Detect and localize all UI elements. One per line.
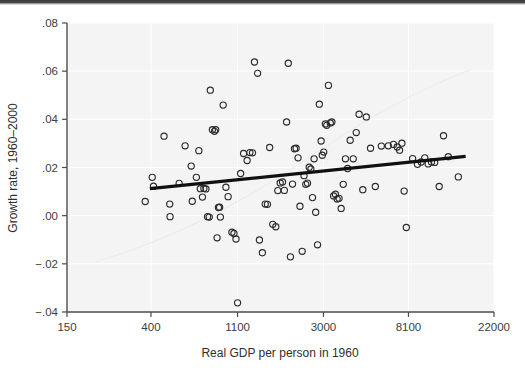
x-axis-ticks: 15040011003000810022000 [57, 312, 510, 333]
y-tick-label: −.04 [35, 306, 58, 318]
y-tick-label: .06 [42, 65, 58, 77]
y-tick-label: .08 [42, 17, 58, 29]
figure-container: −.04−.02.00.02.04.06.08 1504001100300081… [0, 0, 525, 375]
x-tick-label: 1100 [225, 321, 250, 333]
x-tick-label: 150 [57, 321, 76, 333]
x-tick-label: 400 [141, 321, 160, 333]
y-tick-label: .00 [42, 210, 58, 222]
x-tick-label: 3000 [311, 321, 337, 333]
scatter-plot: −.04−.02.00.02.04.06.08 1504001100300081… [0, 0, 525, 375]
y-tick-label: .02 [42, 162, 58, 174]
y-axis-title: Growth rate, 1960–2000 [6, 103, 20, 233]
y-tick-label: −.02 [35, 258, 58, 270]
x-tick-label: 8100 [396, 321, 422, 333]
x-axis-title: Real GDP per person in 1960 [201, 346, 359, 360]
x-tick-label: 22000 [478, 321, 510, 333]
y-tick-label: .04 [42, 113, 59, 125]
y-axis-ticks: −.04−.02.00.02.04.06.08 [35, 17, 67, 318]
